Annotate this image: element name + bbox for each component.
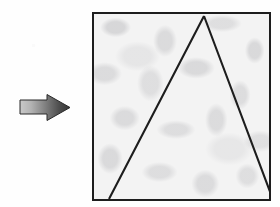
figure-caption: [0, 0, 1, 1]
figure-root: [0, 0, 280, 207]
textured-square-panel: [92, 12, 271, 201]
right-arrow-graphic: [18, 92, 72, 124]
triangle-overlay: [94, 14, 269, 199]
arrow-shape: [20, 95, 70, 121]
triangle-legs: [109, 16, 269, 199]
right-arrow-icon: [18, 92, 72, 124]
